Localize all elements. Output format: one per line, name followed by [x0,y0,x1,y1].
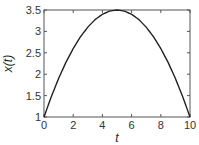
x-tick-label: 0 [41,119,47,131]
x-tick-label: 8 [158,119,164,131]
x-tick-label: 6 [129,119,135,131]
x-tick-label: 2 [70,119,76,131]
y-tick-label: 3 [35,25,41,37]
y-tick-label: 3.5 [26,4,41,16]
y-tick-label: 2.5 [26,47,41,59]
y-tick-label: 2 [35,68,41,80]
y-tick-label: 1 [35,111,41,123]
x-tick-labels: 0246810 [41,119,196,131]
x-tick-label: 10 [184,119,196,131]
series-line-x-of-t [44,10,190,117]
y-axis-label: x(t) [1,55,15,73]
x-axis-label: t [115,131,119,145]
y-tick-labels: 11.522.533.5 [26,4,41,123]
line-chart: 0246810 11.522.533.5 t x(t) [0,0,199,145]
y-tick-label: 1.5 [26,90,41,102]
x-tick-label: 4 [99,119,105,131]
